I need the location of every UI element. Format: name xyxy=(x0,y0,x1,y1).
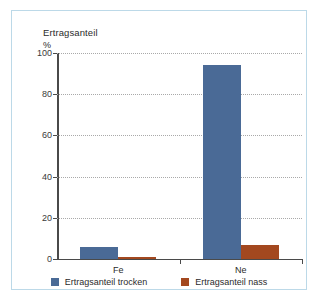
x-category-label: Fe xyxy=(113,265,124,275)
x-tick-mark xyxy=(180,259,181,264)
gridline xyxy=(57,177,302,178)
bar xyxy=(80,247,118,259)
chart-legend: Ertragsanteil trockenErtragsanteil nass xyxy=(12,277,306,287)
gridline xyxy=(57,218,302,219)
legend-item[interactable]: Ertragsanteil trocken xyxy=(51,277,148,287)
legend-label: Ertragsanteil trocken xyxy=(65,277,148,287)
chart-title: Ertragsanteil xyxy=(43,27,98,38)
legend-label: Ertragsanteil nass xyxy=(195,277,267,287)
y-tick-label: 80 xyxy=(42,89,52,99)
legend-item[interactable]: Ertragsanteil nass xyxy=(181,277,267,287)
legend-swatch-icon xyxy=(51,278,59,286)
x-category-label: Ne xyxy=(235,265,247,275)
bar xyxy=(241,245,279,259)
y-tick-label: 100 xyxy=(37,48,52,58)
plot-area: 020406080100 FeNe xyxy=(57,53,302,259)
bar xyxy=(118,257,156,259)
x-axis-line xyxy=(53,259,302,260)
y-tick-mark xyxy=(53,53,57,54)
bar xyxy=(203,65,241,259)
y-tick-label: 60 xyxy=(42,130,52,140)
y-tick-mark xyxy=(53,94,57,95)
x-tick-mark xyxy=(302,259,303,264)
y-tick-label: 40 xyxy=(42,172,52,182)
y-tick-label: 20 xyxy=(42,213,52,223)
y-tick-mark xyxy=(53,218,57,219)
y-tick-mark xyxy=(53,135,57,136)
gridline xyxy=(57,53,302,54)
gridline xyxy=(57,135,302,136)
y-tick-mark xyxy=(53,259,57,260)
chart-figure: Ertragsanteil % 020406080100 FeNe Ertrag… xyxy=(11,10,307,290)
y-tick-label: 0 xyxy=(47,254,52,264)
y-tick-mark xyxy=(53,177,57,178)
legend-swatch-icon xyxy=(181,278,189,286)
y-axis-line xyxy=(57,53,59,259)
gridline xyxy=(57,94,302,95)
